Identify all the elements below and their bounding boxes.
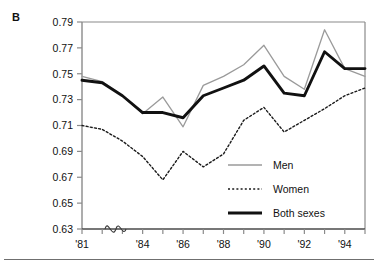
series-line-both-sexes xyxy=(82,52,365,118)
y-tick-label: 0.77 xyxy=(53,42,74,54)
y-tick-label: 0.65 xyxy=(53,197,74,209)
x-tick-label: '84 xyxy=(136,238,150,250)
series-line-women xyxy=(82,88,365,180)
series-path xyxy=(82,52,365,118)
chart-legend: MenWomenBoth sexes xyxy=(228,159,325,219)
series-path xyxy=(82,30,365,127)
y-axis-ticks xyxy=(77,22,82,229)
y-tick-label: 0.79 xyxy=(53,16,74,28)
x-tick-label: '81 xyxy=(75,238,89,250)
y-tick-label: 0.73 xyxy=(53,93,74,105)
x-tick-label: '92 xyxy=(298,238,312,250)
x-tick-label: '88 xyxy=(217,238,231,250)
y-tick-label: 0.67 xyxy=(53,171,74,183)
x-tick-label: '90 xyxy=(257,238,271,250)
y-tick-label: 0.75 xyxy=(53,68,74,80)
x-tick-label: '94 xyxy=(338,238,352,250)
y-tick-label: 0.69 xyxy=(53,145,74,157)
y-axis-tick-labels: 0.630.650.670.690.710.730.750.770.79 xyxy=(53,16,74,235)
series-line-men xyxy=(82,30,365,127)
legend-label: Women xyxy=(273,183,309,195)
line-chart: 0.630.650.670.690.710.730.750.770.79 '81… xyxy=(0,0,378,267)
legend-label: Both sexes xyxy=(273,207,325,219)
figure-panel-b: B 0.630.650.670.690.710.730.750.770.79 '… xyxy=(0,0,378,267)
x-axis-tick-labels: '81'84'86'88'90'92'94 xyxy=(75,238,352,250)
footer-divider xyxy=(4,259,374,260)
y-tick-label: 0.63 xyxy=(53,223,74,235)
axis-break-icon xyxy=(105,224,126,233)
x-tick-label: '86 xyxy=(176,238,190,250)
legend-label: Men xyxy=(273,159,294,171)
series-path xyxy=(82,88,365,180)
y-tick-label: 0.71 xyxy=(53,119,74,131)
